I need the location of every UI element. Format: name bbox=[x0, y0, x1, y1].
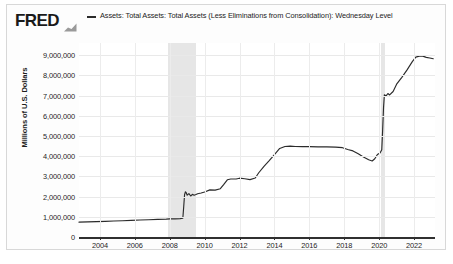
gridline-vertical bbox=[344, 43, 345, 237]
gridline-horizontal bbox=[79, 55, 435, 56]
y-axis-ticks: 9,000,0008,000,0007,000,0006,000,0005,00… bbox=[7, 5, 75, 251]
y-tick-label: 3,000,000 bbox=[9, 172, 75, 181]
x-tick-mark bbox=[205, 237, 206, 240]
y-tick-label: 0 bbox=[9, 233, 75, 242]
gridline-vertical bbox=[414, 43, 415, 237]
x-axis-line bbox=[79, 237, 435, 239]
x-tick-mark bbox=[414, 237, 415, 240]
chart-legend: Assets: Total Assets: Total Assets (Less… bbox=[87, 11, 437, 21]
gridline-vertical bbox=[309, 43, 310, 237]
y-tick-label: 8,000,000 bbox=[9, 71, 75, 80]
gridline-horizontal bbox=[79, 176, 435, 177]
x-tick-mark bbox=[379, 237, 380, 240]
gridline-horizontal bbox=[79, 217, 435, 218]
gridline-vertical bbox=[205, 43, 206, 237]
y-tick-label: 9,000,000 bbox=[9, 51, 75, 60]
legend-series-label: Assets: Total Assets: Total Assets (Less… bbox=[100, 11, 393, 21]
y-tick-label: 1,000,000 bbox=[9, 213, 75, 222]
y-tick-label: 5,000,000 bbox=[9, 132, 75, 141]
chart-frame: FRED Assets: Total Assets: Total Assets … bbox=[6, 4, 446, 250]
y-tick-label: 6,000,000 bbox=[9, 112, 75, 121]
x-tick-mark bbox=[135, 237, 136, 240]
y-tick-label: 4,000,000 bbox=[9, 152, 75, 161]
gridline-vertical bbox=[135, 43, 136, 237]
gridline-horizontal bbox=[79, 75, 435, 76]
x-tick-mark bbox=[274, 237, 275, 240]
x-tick-mark bbox=[309, 237, 310, 240]
gridline-horizontal bbox=[79, 96, 435, 97]
gridline-vertical bbox=[170, 43, 171, 237]
x-tick-mark bbox=[100, 237, 101, 240]
x-tick-mark bbox=[240, 237, 241, 240]
plot-area bbox=[79, 43, 435, 237]
gridline-vertical bbox=[240, 43, 241, 237]
line-swatch-icon bbox=[87, 16, 96, 18]
gridline-horizontal bbox=[79, 116, 435, 117]
gridline-horizontal bbox=[79, 136, 435, 137]
x-tick-label: 2022 bbox=[394, 241, 434, 250]
gridline-horizontal bbox=[79, 156, 435, 157]
series-line bbox=[79, 43, 435, 237]
x-tick-mark bbox=[170, 237, 171, 240]
y-tick-label: 2,000,000 bbox=[9, 193, 75, 202]
gridline-vertical bbox=[274, 43, 275, 237]
y-tick-label: 7,000,000 bbox=[9, 92, 75, 101]
gridline-vertical bbox=[379, 43, 380, 237]
gridline-horizontal bbox=[79, 197, 435, 198]
gridline-vertical bbox=[100, 43, 101, 237]
fred-chart: FRED Assets: Total Assets: Total Assets … bbox=[0, 0, 453, 264]
x-tick-mark bbox=[344, 237, 345, 240]
